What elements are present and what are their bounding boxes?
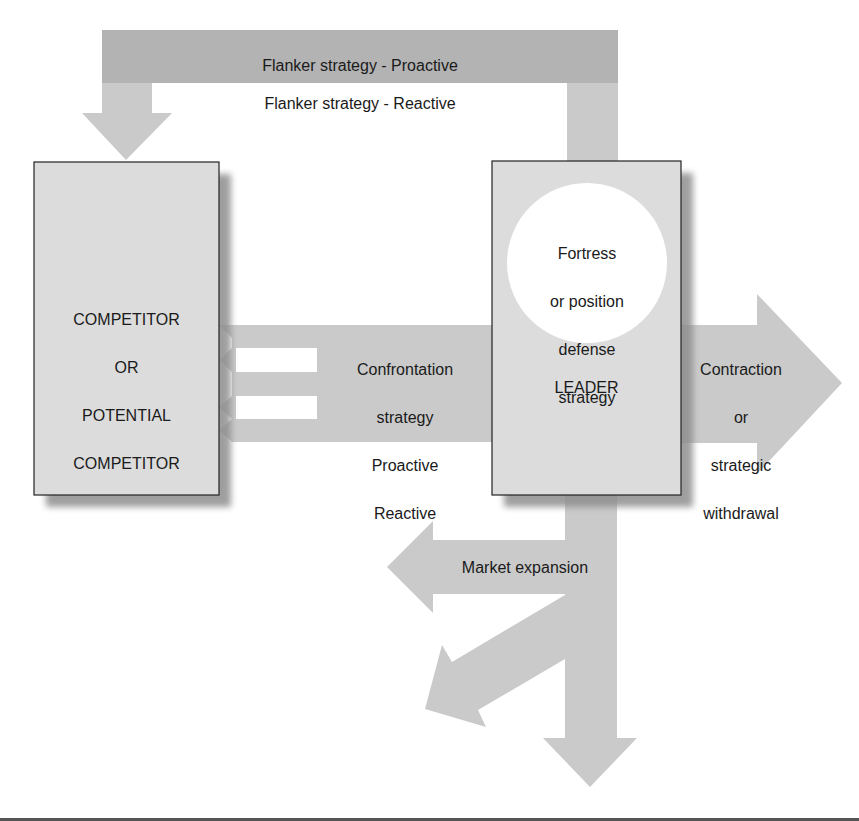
contraction-line-2: or <box>686 406 796 430</box>
contraction-line-3: strategic <box>686 454 796 478</box>
competitor-line-3: POTENTIAL <box>34 404 219 428</box>
confrontation-line-4: Reactive <box>345 502 465 526</box>
market-expansion-label: Market expansion <box>440 558 610 577</box>
flanker-line-2: Flanker strategy - Reactive <box>102 94 618 113</box>
expansion-down-shaft <box>565 495 617 738</box>
confrontation-gap-1 <box>236 348 317 372</box>
fortress-label: Fortress or position defense strategy <box>527 218 647 434</box>
fortress-line-1: Fortress <box>527 242 647 266</box>
expansion-diagonal-arrow <box>425 595 565 727</box>
fortress-line-3: defense <box>527 338 647 362</box>
competitor-line-2: OR <box>34 356 219 380</box>
expansion-down-arrowhead <box>543 738 637 787</box>
competitor-label: COMPETITOR OR POTENTIAL COMPETITOR <box>34 284 219 500</box>
competitor-line-4: COMPETITOR <box>34 452 219 476</box>
leader-label: LEADER <box>492 378 681 397</box>
confrontation-gap-2 <box>236 396 317 419</box>
confrontation-label: Confrontation strategy Proactive Reactiv… <box>345 334 465 550</box>
contraction-line-1: Contraction <box>686 358 796 382</box>
flanker-line-1: Flanker strategy - Proactive <box>102 56 618 75</box>
confrontation-line-1: Confrontation <box>345 358 465 382</box>
contraction-line-4: withdrawal <box>686 502 796 526</box>
competitor-line-1: COMPETITOR <box>34 308 219 332</box>
confrontation-line-3: Proactive <box>345 454 465 478</box>
contraction-label: Contraction or strategic withdrawal <box>686 334 796 550</box>
fortress-line-2: or position <box>527 290 647 314</box>
confrontation-line-2: strategy <box>345 406 465 430</box>
flanker-label: Flanker strategy - Proactive Flanker str… <box>102 37 618 132</box>
